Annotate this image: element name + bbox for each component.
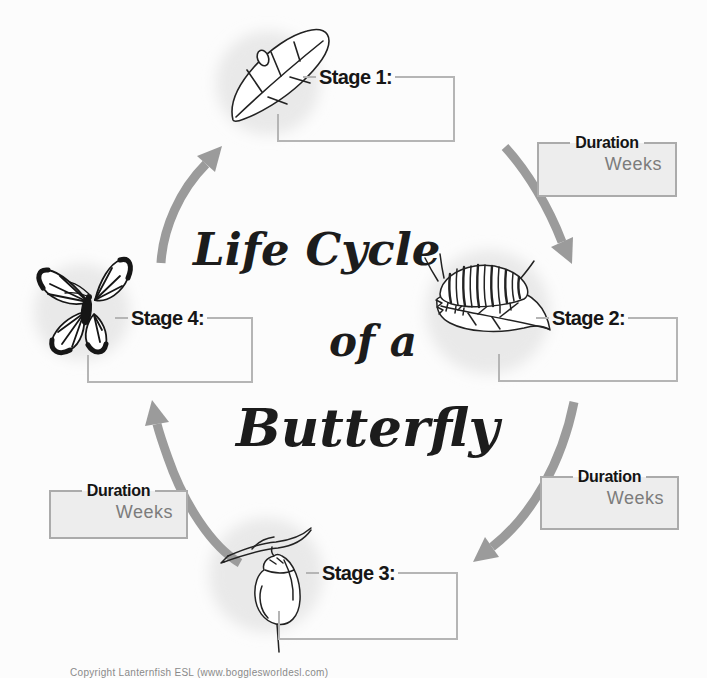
duration-weeks-value: Weeks — [116, 502, 173, 523]
stage-2-answer-box: Stage 2: — [498, 318, 678, 382]
duration-weeks-value: Weeks — [605, 154, 662, 175]
stage-4-answer-box: Stage 4: — [87, 318, 253, 383]
stage-3-label: Stage 3: — [319, 562, 398, 585]
duration-box-bottom-right: Duration Weeks — [540, 477, 679, 530]
duration-weeks-value: Weeks — [607, 488, 664, 509]
box-top-border-line — [155, 490, 188, 492]
box-top-border-line — [49, 490, 82, 492]
stage-4-label: Stage 4: — [128, 307, 207, 330]
stage-2-label: Stage 2: — [549, 307, 628, 330]
stage-1-label: Stage 1: — [316, 66, 395, 89]
copyright-line: Copyright Lanternfish ESL (www.boggleswo… — [70, 667, 328, 678]
duration-label: Duration — [573, 468, 646, 486]
title-line-1: Life Cycle — [193, 227, 440, 272]
duration-box-top-right: Duration Weeks — [537, 143, 677, 197]
box-top-border-line — [644, 142, 677, 144]
box-top-border-line — [207, 317, 253, 319]
box-left-border — [278, 611, 280, 638]
duration-label: Duration — [570, 134, 643, 152]
box-top-border-line — [395, 76, 455, 78]
box-top-border-line — [398, 572, 458, 574]
box-top-border-line — [646, 476, 679, 478]
label-connector-line — [306, 572, 319, 574]
duration-box-left: Duration Weeks — [49, 491, 188, 539]
box-top-border-line — [537, 142, 570, 144]
title-line-2: of a — [329, 321, 417, 363]
box-left-border — [498, 354, 500, 380]
label-connector-line — [536, 317, 549, 319]
box-left-border — [87, 355, 89, 381]
label-connector-line — [303, 76, 316, 78]
label-connector-line — [115, 317, 128, 319]
stage-3-answer-box: Stage 3: — [278, 573, 458, 640]
box-left-border — [277, 114, 279, 140]
duration-label: Duration — [82, 482, 155, 500]
title-line-3: Butterfly — [236, 401, 499, 454]
box-top-border-line — [540, 476, 573, 478]
box-top-border-line — [628, 317, 678, 319]
stage-1-answer-box: Stage 1: — [277, 77, 455, 142]
